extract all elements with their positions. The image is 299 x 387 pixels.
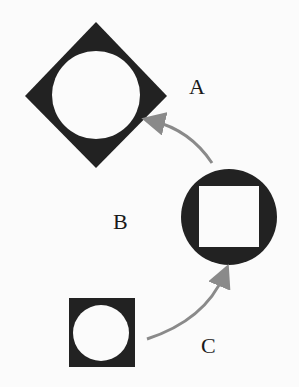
shape-a-circle-hole <box>52 51 140 139</box>
shape-c-circle-hole <box>73 305 129 361</box>
shape-a <box>25 22 167 168</box>
shape-b <box>181 169 277 265</box>
label-c: C <box>201 333 216 358</box>
arrow-c-to-b <box>147 275 224 339</box>
shape-b-square-hole <box>199 186 259 247</box>
label-b: B <box>113 209 128 234</box>
diagram-canvas: A B C <box>0 0 299 387</box>
label-a: A <box>189 74 205 99</box>
shape-c <box>69 298 135 367</box>
arrow-b-to-a <box>153 121 212 163</box>
